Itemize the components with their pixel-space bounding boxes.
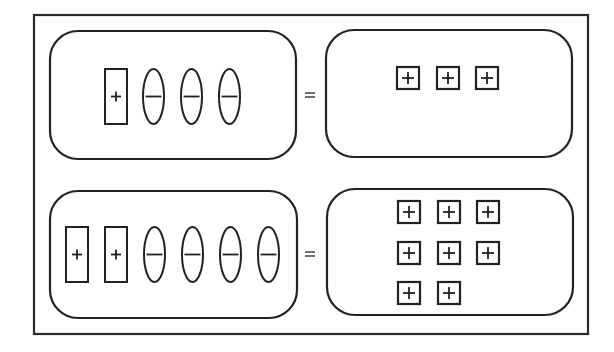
positive-unit-square-icon bbox=[398, 282, 420, 304]
negative-oval-tile-icon bbox=[144, 227, 165, 282]
positive-unit-square-icon bbox=[397, 67, 419, 89]
algebra-tiles-diagram bbox=[0, 0, 614, 352]
negative-oval-tile-icon bbox=[181, 69, 202, 124]
positive-long-tile-icon bbox=[66, 227, 88, 282]
positive-unit-square-icon bbox=[477, 201, 499, 223]
positive-long-tile-icon bbox=[105, 227, 127, 282]
negative-oval-tile-icon bbox=[220, 227, 241, 282]
positive-unit-square-icon bbox=[438, 242, 460, 264]
positive-unit-square-icon bbox=[437, 67, 459, 89]
negative-oval-tile-icon bbox=[219, 69, 240, 124]
positive-unit-square-icon bbox=[438, 201, 460, 223]
negative-oval-tile-icon bbox=[258, 227, 279, 282]
left-expression-panel bbox=[50, 31, 296, 159]
positive-unit-square-icon bbox=[477, 242, 499, 264]
positive-unit-square-icon bbox=[438, 282, 460, 304]
negative-oval-tile-icon bbox=[143, 69, 164, 124]
equation-row-2 bbox=[50, 189, 573, 318]
equals-sign-icon bbox=[305, 252, 315, 256]
equation-rows bbox=[50, 30, 573, 318]
positive-unit-square-icon bbox=[398, 201, 420, 223]
negative-oval-tile-icon bbox=[182, 227, 203, 282]
equals-sign-icon bbox=[305, 93, 315, 97]
positive-unit-square-icon bbox=[398, 242, 420, 264]
equation-row-1 bbox=[50, 30, 572, 159]
right-result-panel bbox=[326, 30, 572, 157]
positive-long-tile-icon bbox=[105, 69, 127, 124]
positive-unit-square-icon bbox=[476, 67, 498, 89]
diagram-canvas bbox=[0, 0, 614, 352]
